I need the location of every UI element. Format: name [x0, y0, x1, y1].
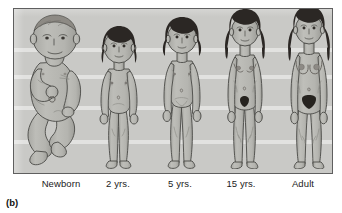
figure-15-yrs — [214, 8, 276, 169]
areola — [314, 64, 320, 70]
illustration-panel — [13, 8, 333, 174]
figure-2-yrs — [89, 21, 149, 169]
figure-adult — [277, 8, 333, 169]
caption-row: Newborn 2 yrs. 5 yrs. 15 yrs. Adult — [13, 178, 333, 192]
label-2-yrs: 2 yrs. — [88, 178, 148, 189]
figure-newborn — [14, 11, 94, 169]
figure-root: Newborn 2 yrs. 5 yrs. 15 yrs. Adult (b) — [0, 0, 342, 213]
label-15-yrs: 15 yrs. — [209, 178, 273, 189]
panel-tag-b: (b) — [6, 197, 18, 208]
figure-5-yrs — [152, 13, 212, 169]
label-5-yrs: 5 yrs. — [150, 178, 210, 189]
figure-row — [14, 9, 332, 173]
label-adult: Adult — [272, 178, 334, 189]
areola — [299, 64, 305, 70]
